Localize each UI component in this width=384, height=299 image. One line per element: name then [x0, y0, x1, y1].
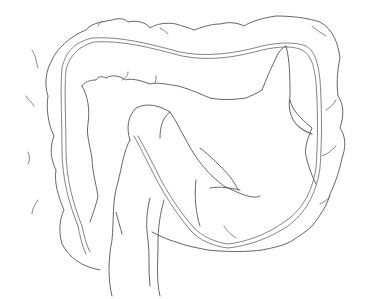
colon-diagram	[0, 0, 384, 299]
haustra-marks	[26, 21, 336, 238]
inner-outline	[82, 46, 316, 222]
lumen-tube	[61, 38, 321, 254]
sigmoid-loop	[109, 105, 260, 296]
colon-illustration	[0, 0, 384, 299]
